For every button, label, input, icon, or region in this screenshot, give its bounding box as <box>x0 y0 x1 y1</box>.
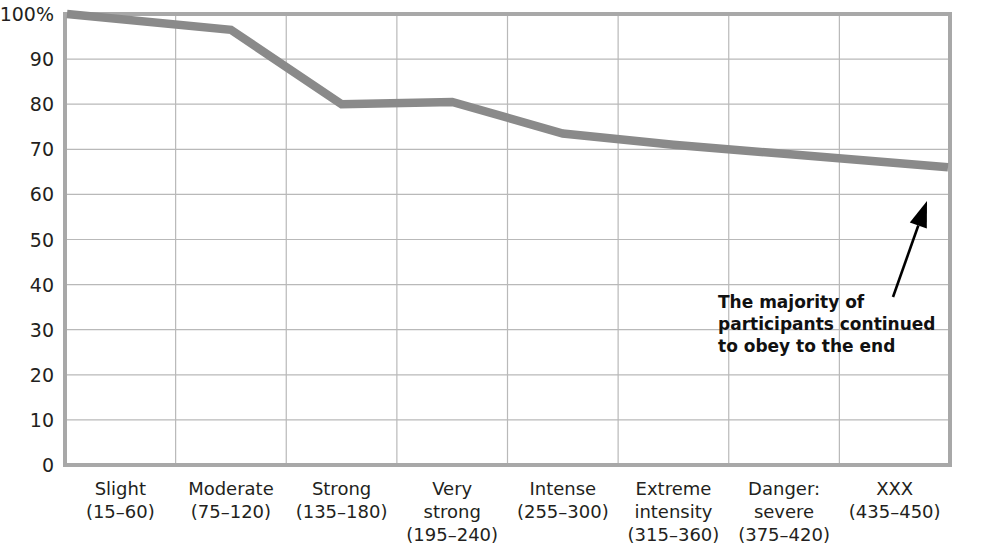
x-tick-2: Strong(135–180) <box>296 478 388 522</box>
y-axis-tick-labels: 100%9080706050403020100 <box>0 3 54 476</box>
y-tick-50: 50 <box>30 229 54 251</box>
annotation-arrow-shaft <box>893 226 918 298</box>
x-axis-tick-labels: Slight(15–60)Moderate(75–120)Strong(135–… <box>86 478 941 545</box>
y-tick-30: 30 <box>30 319 54 341</box>
y-tick-10: 10 <box>30 409 54 431</box>
x-tick-5: Extremeintensity(315–360) <box>628 478 720 545</box>
x-tick-7: XXX(435–450) <box>849 478 941 522</box>
y-tick-40: 40 <box>30 274 54 296</box>
y-tick-0: 0 <box>42 454 54 476</box>
y-tick-20: 20 <box>30 364 54 386</box>
y-tick-60: 60 <box>30 183 54 205</box>
y-tick-100: 100% <box>0 3 54 25</box>
obedience-line-chart: 100%9080706050403020100 Slight(15–60)Mod… <box>0 0 994 554</box>
x-tick-1: Moderate(75–120) <box>188 478 274 522</box>
x-tick-0: Slight(15–60) <box>86 478 155 522</box>
annotation-label: The majority ofparticipants continuedto … <box>718 292 936 356</box>
annotation-majority-obeyed: The majority ofparticipants continuedto … <box>718 201 936 356</box>
y-tick-90: 90 <box>30 48 54 70</box>
y-tick-70: 70 <box>30 138 54 160</box>
x-tick-4: Intense(255–300) <box>517 478 609 522</box>
y-tick-80: 80 <box>30 93 54 115</box>
x-tick-6: Danger:severe(375–420) <box>738 478 830 545</box>
chart-canvas: 100%9080706050403020100 Slight(15–60)Mod… <box>0 0 994 554</box>
annotation-arrow-head <box>910 201 927 229</box>
x-tick-3: Verystrong(195–240) <box>406 478 498 545</box>
